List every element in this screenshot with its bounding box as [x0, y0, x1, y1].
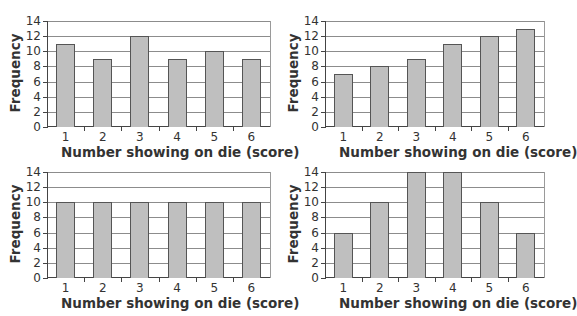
gridline: [47, 187, 270, 188]
y-axis-line: [47, 172, 48, 279]
x-tick-label: 3: [406, 281, 426, 295]
bar-score-1: [56, 202, 75, 278]
bar-score-6: [516, 233, 535, 278]
x-tick-mark: [84, 127, 85, 131]
x-tick-label: 5: [204, 281, 224, 295]
x-tick-label: 1: [333, 130, 353, 144]
gridline: [325, 263, 544, 264]
gridline: [325, 36, 544, 37]
y-tick-label: 8: [299, 60, 319, 72]
y-tick-label: 14: [21, 166, 41, 178]
x-tick-mark: [159, 278, 160, 282]
x-tick-mark: [471, 278, 472, 282]
y-tick-label: 10: [21, 196, 41, 208]
gridline: [325, 187, 544, 188]
gridline: [325, 51, 544, 52]
gridline: [47, 263, 270, 264]
gridline: [325, 233, 544, 234]
y-axis-title: Frequency: [285, 184, 301, 264]
x-tick-label: 2: [93, 281, 113, 295]
gridline: [325, 172, 544, 173]
x-tick-label: 2: [370, 130, 390, 144]
y-tick-label: 8: [21, 60, 41, 72]
x-tick-mark: [196, 278, 197, 282]
gridline: [47, 202, 270, 203]
y-tick-label: 0: [21, 272, 41, 284]
gridline: [325, 82, 544, 83]
bar-score-5: [480, 36, 499, 127]
gridline: [325, 21, 544, 22]
y-tick-label: 4: [21, 91, 41, 103]
x-tick-mark: [471, 127, 472, 131]
x-tick-mark: [398, 278, 399, 282]
x-tick-label: 5: [479, 130, 499, 144]
x-tick-mark: [362, 127, 363, 131]
gridline: [325, 202, 544, 203]
x-tick-mark: [121, 278, 122, 282]
y-tick-label: 10: [21, 45, 41, 57]
y-tick-label: 0: [299, 121, 319, 133]
x-tick-mark: [233, 127, 234, 131]
bar-score-5: [480, 202, 499, 278]
gridline: [47, 51, 270, 52]
y-tick-label: 4: [21, 242, 41, 254]
y-tick-label: 6: [299, 76, 319, 88]
bar-score-4: [443, 172, 462, 278]
x-tick-mark: [435, 127, 436, 131]
x-axis-title: Number showing on die (score): [339, 295, 577, 311]
x-tick-label: 3: [130, 130, 150, 144]
x-tick-label: 4: [167, 281, 187, 295]
plot-area: [47, 172, 271, 278]
chart-bottom-right: 02468101214123456Number showing on die (…: [278, 151, 556, 309]
x-tick-label: 1: [333, 281, 353, 295]
y-axis-title: Frequency: [285, 33, 301, 113]
x-tick-mark: [398, 127, 399, 131]
plot-area: [325, 21, 545, 127]
x-tick-label: 3: [130, 281, 150, 295]
bar-score-2: [93, 59, 112, 127]
y-tick-label: 8: [21, 211, 41, 223]
bar-score-3: [130, 202, 149, 278]
bar-score-6: [242, 59, 261, 127]
gridline: [47, 248, 270, 249]
y-tick-label: 2: [299, 106, 319, 118]
x-tick-label: 6: [516, 130, 536, 144]
bar-score-2: [370, 66, 389, 127]
bar-score-5: [205, 51, 224, 127]
chart-top-right: 02468101214123456Number showing on die (…: [278, 0, 556, 158]
gridline: [47, 36, 270, 37]
y-axis-line: [325, 21, 326, 128]
x-tick-label: 2: [93, 130, 113, 144]
chart-bottom-left: 02468101214123456Number showing on die (…: [0, 151, 278, 309]
x-tick-label: 1: [56, 281, 76, 295]
gridline: [47, 172, 270, 173]
y-tick-label: 4: [299, 242, 319, 254]
x-tick-label: 1: [56, 130, 76, 144]
y-tick-label: 10: [299, 196, 319, 208]
x-tick-label: 6: [241, 281, 261, 295]
y-tick-label: 6: [299, 227, 319, 239]
x-tick-label: 4: [167, 130, 187, 144]
gridline: [47, 66, 270, 67]
bar-score-4: [168, 202, 187, 278]
y-tick-label: 12: [21, 30, 41, 42]
x-tick-mark: [121, 127, 122, 131]
x-tick-mark: [196, 127, 197, 131]
y-axis-line: [325, 172, 326, 279]
x-tick-label: 4: [443, 281, 463, 295]
x-tick-label: 5: [479, 281, 499, 295]
x-tick-label: 3: [406, 130, 426, 144]
y-tick-label: 10: [299, 45, 319, 57]
y-tick-label: 4: [299, 91, 319, 103]
plot-area: [325, 172, 545, 278]
bar-score-3: [130, 36, 149, 127]
y-axis-title: Frequency: [7, 184, 23, 264]
y-tick-label: 0: [299, 272, 319, 284]
bar-score-2: [370, 202, 389, 278]
y-tick-label: 12: [299, 30, 319, 42]
gridline: [325, 217, 544, 218]
bar-score-3: [407, 172, 426, 278]
y-tick-label: 0: [21, 121, 41, 133]
bar-score-1: [56, 44, 75, 127]
gridline: [325, 112, 544, 113]
